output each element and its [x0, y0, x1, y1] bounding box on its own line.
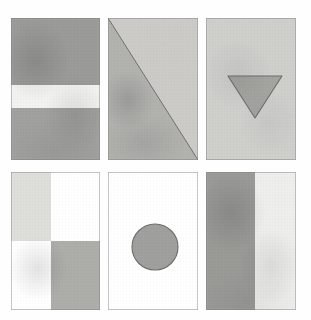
- right-light-band: [255, 172, 296, 310]
- inverted-triangle: [228, 76, 282, 118]
- light-band: [11, 85, 100, 108]
- diagonal-split-svg: [108, 18, 198, 160]
- quadrant-top-left: [11, 172, 51, 241]
- left-dark-band: [206, 172, 255, 310]
- panel-vertical-bands: [206, 172, 296, 310]
- panel-checkerboard: [11, 172, 100, 310]
- quadrant-top-right: [51, 172, 100, 241]
- diagonal-shape-group: [108, 18, 198, 160]
- triangle-svg: [206, 18, 296, 160]
- quadrant-bottom-left: [11, 241, 51, 310]
- panel-horizontal-band: [11, 18, 100, 160]
- panel-inverted-triangle: [206, 18, 296, 160]
- lower-gray-block: [11, 108, 100, 160]
- panel-circle: [108, 172, 198, 310]
- circle-svg: [108, 172, 198, 310]
- gray-circle: [132, 224, 178, 270]
- panel-diagonal-split: [108, 18, 198, 160]
- artboard: [0, 0, 311, 320]
- quadrant-bottom-right: [51, 241, 100, 310]
- upper-gray-block: [11, 18, 100, 85]
